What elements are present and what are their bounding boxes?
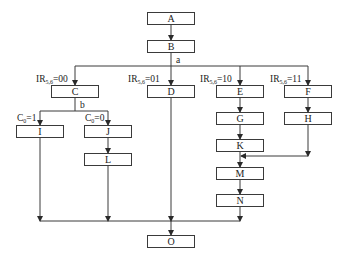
- branch-label-ir-00: IR5,6=00: [36, 75, 68, 85]
- node-o: O: [147, 235, 195, 248]
- node-j: J: [84, 125, 132, 138]
- node-l-label: L: [105, 155, 111, 165]
- node-a-label: A: [167, 14, 174, 24]
- node-g-label: G: [236, 114, 243, 124]
- branch-label-c0-1: C0=1: [17, 114, 36, 124]
- node-e-label: E: [237, 87, 243, 97]
- node-b: B: [147, 40, 195, 53]
- node-g: G: [216, 112, 264, 125]
- node-o-label: O: [167, 237, 174, 247]
- node-b-label: B: [168, 42, 175, 52]
- node-h-label: H: [304, 114, 311, 124]
- node-c: C: [51, 85, 99, 98]
- node-m-label: M: [236, 169, 245, 179]
- node-d: D: [147, 85, 195, 98]
- node-l: L: [84, 153, 132, 166]
- node-f-label: F: [305, 87, 311, 97]
- node-e: E: [216, 85, 264, 98]
- branch-label-ir-01: IR5,6=01: [128, 75, 160, 85]
- node-k: K: [216, 139, 264, 152]
- node-i: I: [16, 125, 64, 138]
- node-n-label: N: [236, 196, 243, 206]
- node-h: H: [284, 112, 332, 125]
- node-m: M: [216, 167, 264, 180]
- point-label-b: b: [80, 101, 85, 111]
- node-j-label: J: [106, 127, 110, 137]
- branch-label-ir-11: IR5,6=11: [270, 75, 302, 85]
- node-a: A: [147, 12, 195, 25]
- branch-label-c0-0: C0=0: [85, 114, 104, 124]
- node-d-label: D: [167, 87, 174, 97]
- node-i-label: I: [38, 127, 41, 137]
- node-c-label: C: [72, 87, 79, 97]
- point-label-a: a: [176, 56, 180, 66]
- node-n: N: [216, 194, 264, 207]
- node-f: F: [284, 85, 332, 98]
- node-k-label: K: [236, 141, 243, 151]
- branch-label-ir-10: IR5,6=10: [200, 75, 232, 85]
